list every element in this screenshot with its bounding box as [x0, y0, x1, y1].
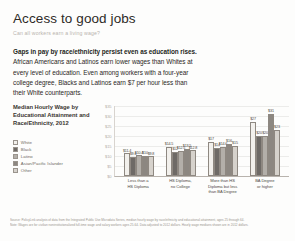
legend-label: Black — [21, 147, 32, 152]
body-line: college degree, Blacks and Latinos earn … — [13, 78, 205, 88]
bar-value-label: $12.8 — [189, 146, 197, 150]
infographic-page: Access to good jobs Can all workers earn… — [0, 0, 295, 241]
chart-bar: $15 — [232, 146, 237, 176]
chart-bar: $9.8 — [148, 156, 153, 176]
chart-source-note: Source: PolicyLink analysis of data from… — [10, 218, 287, 228]
bar-value-label: $16 — [226, 139, 232, 143]
body-line: every level of education. Even among wor… — [13, 68, 205, 78]
x-axis-label-line: no College — [160, 184, 200, 190]
bar-group: $14.5$12$12.5$13.5$12.8 — [166, 106, 195, 176]
chart-bar: $11.4 — [124, 153, 129, 176]
chart-title: Median Hourly Wage by Educational Attain… — [13, 104, 93, 127]
bar-value-label: $15 — [232, 141, 238, 145]
bar-fill — [142, 156, 147, 176]
legend-label: White — [21, 140, 32, 145]
legend-swatch-icon — [13, 168, 18, 173]
bar-fill — [274, 130, 279, 176]
legend-swatch-icon — [13, 154, 18, 159]
bar-value-label: $20 — [256, 131, 262, 135]
bar-value-label: $17 — [208, 137, 214, 141]
chart-title-line: Educational Attainment and — [13, 112, 93, 120]
note-line: Note: Wages are for civilian noninstitut… — [10, 223, 287, 228]
chart-bar: $23 — [274, 130, 279, 176]
bar-value-label: $23 — [274, 125, 280, 129]
body-line: African Americans and Latinos earn lower… — [13, 57, 205, 67]
chart-bar: $20 — [262, 136, 267, 176]
body-lead: Gaps in pay by race/ethnicity persist ev… — [13, 47, 205, 56]
chart-bar: $13.5 — [184, 149, 189, 176]
legend-swatch-icon — [13, 147, 18, 152]
chart-legend: White Black Latino Asian/Pacific Islande… — [13, 140, 91, 175]
bar-group: $17$14$14.6$16$15 — [208, 106, 237, 176]
y-axis-tick-label: $10 — [105, 154, 112, 159]
chart-title-line: Race/Ethnicity, 2012 — [13, 120, 93, 128]
chart-bar: $17 — [208, 142, 213, 176]
x-axis-category-label: BA Degreeor higher — [245, 178, 285, 195]
bar-value-label: $9.8 — [148, 152, 155, 156]
legend-label: Other — [21, 168, 32, 173]
chart-plot-area: $35$30$25$20$15$10$5$0 $11.4$9.6$10.4$10… — [100, 106, 289, 188]
bar-fill — [166, 147, 171, 176]
x-axis-label-line: or higher — [245, 184, 285, 190]
chart-bar: $16 — [226, 144, 231, 176]
bar-value-label: $31 — [268, 109, 274, 113]
chart-bar: $14.6 — [220, 147, 225, 176]
bar-fill — [136, 155, 141, 176]
bar-fill — [184, 149, 189, 176]
bar-group: $27$20$20$31$23 — [250, 106, 279, 176]
chart-bar: $12.5 — [178, 151, 183, 176]
bar-fill — [268, 114, 273, 176]
y-axis-tick-label: $35 — [105, 104, 112, 109]
y-axis-tick-label: $5 — [107, 164, 111, 169]
bar-fill — [226, 144, 231, 176]
chart-title-line: Median Hourly Wage by — [13, 104, 93, 112]
page-subtitle: Can all workers earn a living wage? — [13, 30, 285, 36]
page-title: Access to good jobs — [13, 12, 285, 27]
legend-swatch-icon — [13, 161, 18, 166]
bar-group: $11.4$9.6$10.4$10$9.8 — [124, 106, 153, 176]
legend-item-black: Black — [13, 147, 91, 152]
chart-bar: $14 — [214, 148, 219, 176]
bar-fill — [232, 146, 237, 176]
y-axis-tick-label: $0 — [107, 174, 111, 179]
bar-value-label: $14.5 — [165, 142, 173, 146]
legend-label: Latino — [21, 154, 33, 159]
body-copy: Gaps in pay by race/ethnicity persist ev… — [13, 47, 205, 99]
bar-fill — [130, 157, 135, 176]
x-axis-category-label: Less than aHS Diploma — [118, 178, 158, 195]
y-axis-tick-label: $30 — [105, 114, 112, 119]
bar-fill — [172, 152, 177, 176]
page-header: Access to good jobs Can all workers earn… — [13, 12, 285, 36]
y-axis-tick-label: $20 — [105, 134, 112, 139]
chart-bar: $27 — [250, 122, 255, 176]
x-axis-label-line: than BA Degree — [203, 189, 243, 195]
bar-fill — [190, 150, 195, 176]
bar-value-label: $27 — [250, 117, 256, 121]
chart-bar: $12.8 — [190, 150, 195, 176]
chart-bar: $14.5 — [166, 147, 171, 176]
legend-label: Asian/Pacific Islander — [21, 161, 63, 166]
chart-y-axis: $35$30$25$20$15$10$5$0 — [100, 106, 113, 176]
bar-fill — [208, 142, 213, 176]
bar-fill — [148, 156, 153, 176]
chart-bar-groups: $11.4$9.6$10.4$10$9.8$14.5$12$12.5$13.5$… — [115, 106, 289, 176]
bar-fill — [250, 122, 255, 176]
chart-container: Median Hourly Wage by Educational Attain… — [0, 104, 295, 208]
chart-bar: $12 — [172, 152, 177, 176]
body-paragraph: African Americans and Latinos earn lower… — [13, 57, 205, 99]
legend-item-other: Other — [13, 168, 91, 173]
bar-value-label: $20 — [262, 131, 268, 135]
legend-swatch-icon — [13, 140, 18, 145]
chart-bar: $9.6 — [130, 157, 135, 176]
chart-bar: $31 — [268, 114, 273, 176]
legend-item-white: White — [13, 140, 91, 145]
x-axis-label-line: HS Diploma — [118, 184, 158, 190]
y-axis-tick-label: $25 — [105, 124, 112, 129]
chart-bar: $10.4 — [136, 155, 141, 176]
legend-item-asian-pacific-islander: Asian/Pacific Islander — [13, 161, 91, 166]
legend-item-latino: Latino — [13, 154, 91, 159]
x-axis-category-label: HS Diploma,no College — [160, 178, 200, 195]
bar-fill — [178, 151, 183, 176]
x-axis-category-label: More than HSDiploma but lessthan BA Degr… — [203, 178, 243, 195]
bar-fill — [124, 153, 129, 176]
